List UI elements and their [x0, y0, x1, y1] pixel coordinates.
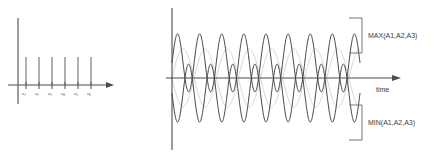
x-tick-label: a3: [48, 91, 52, 97]
x-tick-label: a2: [35, 91, 39, 97]
tick-label-group: a1 a2 a3 a4 a5 a6: [22, 91, 91, 97]
x-tick-label: a5: [74, 91, 78, 97]
left-x-axis-arrow-icon: [106, 82, 114, 88]
diagram-figure: a1 a2 a3 a4 a5 a6: [0, 0, 444, 156]
x-tick-label: a4: [61, 91, 65, 97]
max-bracket-label: MAX(A1,A2,A3): [368, 32, 417, 40]
left-spectrum-svg: a1 a2 a3 a4 a5 a6: [0, 0, 160, 156]
time-axis-arrow-icon: [392, 75, 401, 81]
lower-envelope-wave: [172, 64, 360, 122]
impulse-group: [26, 57, 91, 85]
time-axis-label: time: [376, 86, 389, 93]
min-bracket-label: MIN(A1,A2,A3): [368, 119, 415, 127]
left-spectrum-panel: a1 a2 a3 a4 a5 a6: [0, 0, 160, 156]
x-tick-label: a1: [22, 91, 26, 97]
upper-envelope-wave: [172, 34, 360, 92]
max-bracket-shape: [353, 18, 362, 53]
right-waveform-svg: time MAX(A1,A2,A3) MIN(A1,A2,A3): [160, 0, 444, 156]
x-tick-label: a6: [87, 91, 91, 97]
right-waveform-panel: time MAX(A1,A2,A3) MIN(A1,A2,A3): [160, 0, 444, 156]
